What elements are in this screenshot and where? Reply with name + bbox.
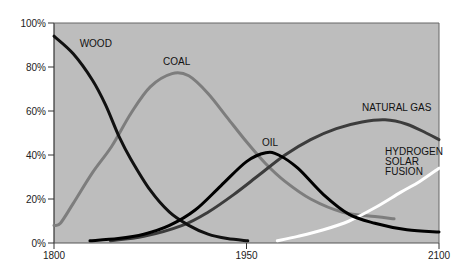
series-label-natural-gas: NATURAL GAS: [362, 102, 432, 113]
x-tick-label: 1800: [43, 250, 66, 261]
series-label-wood: WOOD: [80, 38, 112, 49]
y-tick-label: 60%: [26, 106, 46, 117]
series-label-hydrogen-solar-fusion: FUSION: [385, 166, 423, 177]
y-tick-label: 0%: [32, 238, 47, 249]
series-label-coal: COAL: [163, 56, 191, 67]
energy-share-chart: 0%20%40%60%80%100%180019502100 WOODCOALO…: [0, 0, 472, 276]
y-tick-label: 80%: [26, 62, 46, 73]
plot-background: [54, 23, 439, 243]
y-tick-label: 100%: [20, 18, 46, 29]
x-tick-label: 2100: [428, 250, 451, 261]
x-tick-label: 1950: [235, 250, 258, 261]
series-label-oil: OIL: [262, 137, 279, 148]
y-tick-label: 20%: [26, 194, 46, 205]
y-tick-label: 40%: [26, 150, 46, 161]
